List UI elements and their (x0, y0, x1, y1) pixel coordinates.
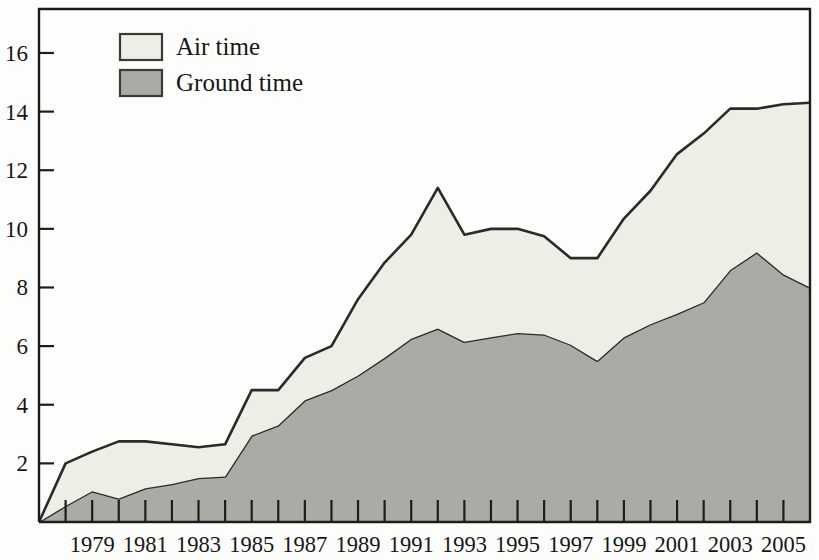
y-tick-label-4: 4 (17, 393, 29, 418)
y-tick-label-10: 10 (5, 217, 28, 242)
x-tick-label-2001: 2001 (655, 532, 700, 557)
legend-swatch-air-time (120, 34, 162, 60)
x-tick-label-1989: 1989 (336, 532, 381, 557)
chart-container: 246810121416 197919811983198519871989199… (0, 0, 819, 560)
y-tick-label-6: 6 (17, 334, 29, 359)
x-tick-label-1995: 1995 (495, 532, 540, 557)
x-tick-label-1997: 1997 (548, 532, 593, 557)
x-tick-label-1993: 1993 (442, 532, 487, 557)
x-tick-label-1981: 1981 (123, 532, 168, 557)
x-tick-label-2005: 2005 (761, 532, 806, 557)
x-tick-label-1983: 1983 (176, 532, 221, 557)
x-tick-label-1985: 1985 (229, 532, 274, 557)
y-tick-label-12: 12 (5, 158, 28, 183)
x-tick-label-1979: 1979 (70, 532, 115, 557)
x-tick-label-1999: 1999 (601, 532, 646, 557)
x-tick-label-2003: 2003 (708, 532, 753, 557)
legend-label-air-time: Air time (176, 33, 260, 60)
area-chart: 246810121416 197919811983198519871989199… (0, 0, 819, 560)
y-tick-label-2: 2 (17, 451, 29, 476)
y-tick-label-14: 14 (5, 100, 29, 125)
x-tick-label-1991: 1991 (389, 532, 434, 557)
legend-swatch-ground-time (120, 70, 162, 96)
y-tick-label-8: 8 (17, 275, 29, 300)
legend-label-ground-time: Ground time (176, 69, 303, 96)
x-tick-label-1987: 1987 (282, 532, 327, 557)
y-tick-label-16: 16 (5, 41, 28, 66)
